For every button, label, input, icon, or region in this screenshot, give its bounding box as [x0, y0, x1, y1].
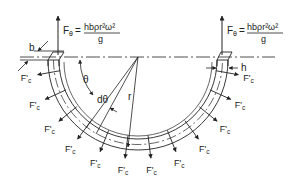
- right-force-formula: Fθ= hbρr²ω² g: [227, 22, 283, 44]
- radial-force-arrow: [100, 130, 109, 151]
- left-formula-denominator: g: [98, 34, 103, 44]
- right-formula-denominator: g: [261, 34, 266, 44]
- radial-force-label: F'c: [65, 144, 76, 155]
- radial-force-arrow: [45, 90, 66, 100]
- radial-lines: [86, 57, 138, 147]
- radial-force-label: F'c: [235, 100, 246, 111]
- radius-label: r: [128, 91, 132, 102]
- radial-force-arrow: [185, 121, 199, 140]
- radial-force-arrow: [59, 107, 77, 122]
- dtheta-arrow: [110, 108, 117, 112]
- dtheta-label: dθ: [97, 94, 109, 105]
- radial-force-label: F'c: [199, 144, 210, 155]
- centrifugal-forces: F'cF'cF'cF'cF'cF'cF'cF'cF'cF'cF'cF'c: [21, 71, 255, 176]
- radial-force-arrow: [199, 107, 217, 122]
- radial-force-label: F'c: [146, 165, 157, 176]
- radial-force-arrow: [125, 135, 128, 158]
- svg-text:Fθ=: Fθ=: [63, 25, 81, 37]
- radial-force-arrow: [210, 90, 231, 100]
- right-formula-numerator: hbρr²ω²: [247, 22, 278, 32]
- outer-arc: [48, 60, 228, 150]
- radial-force-label: F'c: [174, 158, 185, 169]
- radial-force-arrow: [78, 121, 92, 140]
- radial-force-arrow: [148, 135, 151, 158]
- ring-arcs: [48, 60, 228, 150]
- width-label: b: [29, 42, 35, 53]
- middle-arc: [54, 60, 223, 145]
- svg-text:Fθ=: Fθ=: [227, 25, 245, 37]
- right-end-block: [217, 52, 232, 66]
- ring-diagram: Fθ= hbρr²ω² g Fθ= hbρr²ω² g b h θ dθ r F…: [0, 0, 297, 180]
- radial-force-label: F'c: [29, 100, 40, 111]
- radial-force-label: F'c: [44, 124, 55, 135]
- radial-force-label: F'c: [118, 165, 129, 176]
- inner-arc: [59, 60, 217, 139]
- left-formula-numerator: hbρr²ω²: [84, 22, 115, 32]
- radial-force-label: F'c: [21, 73, 32, 84]
- radial-force-label: F'c: [220, 124, 231, 135]
- radial-force-label: F'c: [90, 158, 101, 169]
- left-force-formula: Fθ= hbρr²ω² g: [63, 22, 120, 44]
- radial-force-arrow: [167, 130, 176, 151]
- radial-force-label: F'c: [243, 73, 254, 84]
- height-label: h: [241, 62, 247, 73]
- width-dimension: [18, 41, 64, 71]
- theta-label: θ: [83, 74, 89, 85]
- left-end-block: [48, 52, 64, 66]
